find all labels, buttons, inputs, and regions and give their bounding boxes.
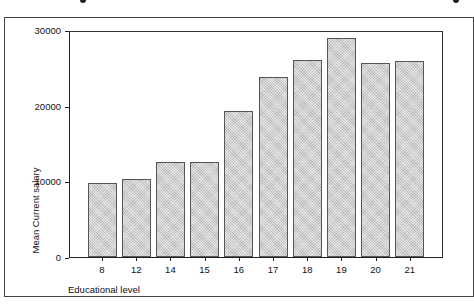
bar-14 xyxy=(156,162,185,257)
x-tick-label: 20 xyxy=(361,264,391,275)
bar-15 xyxy=(190,162,219,257)
x-tick-mark xyxy=(273,258,274,261)
bar-18 xyxy=(293,60,322,257)
plot-area xyxy=(69,31,443,258)
y-tick-mark xyxy=(65,258,69,259)
x-tick-label: 17 xyxy=(258,264,288,275)
x-tick-mark xyxy=(410,258,411,261)
bar-19 xyxy=(327,38,356,257)
cropped-title-fragment-left xyxy=(80,0,86,3)
x-tick-mark xyxy=(239,258,240,261)
x-tick-label: 15 xyxy=(190,264,220,275)
x-tick-mark xyxy=(376,258,377,261)
x-tick-mark xyxy=(170,258,171,261)
cropped-title-fragment-right xyxy=(453,0,459,3)
x-tick-label: 21 xyxy=(395,264,425,275)
y-axis-label: Mean Current salary xyxy=(30,136,41,286)
x-axis-label: Educational level xyxy=(68,284,140,295)
x-tick-label: 16 xyxy=(224,264,254,275)
y-tick-label: 30000 xyxy=(11,26,61,36)
bar-21 xyxy=(395,61,424,257)
x-tick-mark xyxy=(341,258,342,261)
x-tick-mark xyxy=(307,258,308,261)
y-tick-label: 20000 xyxy=(11,102,61,112)
x-tick-label: 18 xyxy=(292,264,322,275)
bar-8 xyxy=(88,183,117,257)
x-tick-label: 12 xyxy=(121,264,151,275)
x-tick-mark xyxy=(205,258,206,261)
x-tick-label: 19 xyxy=(326,264,356,275)
bar-16 xyxy=(224,111,253,257)
bar-17 xyxy=(259,77,288,257)
x-tick-label: 8 xyxy=(87,264,117,275)
bar-12 xyxy=(122,179,151,257)
x-tick-label: 14 xyxy=(155,264,185,275)
x-tick-mark xyxy=(136,258,137,261)
x-tick-mark xyxy=(102,258,103,261)
bar-20 xyxy=(361,63,390,257)
